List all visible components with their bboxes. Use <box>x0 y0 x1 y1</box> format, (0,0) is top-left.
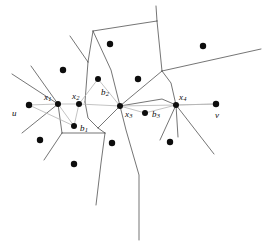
cell-edge-e-b1-cell-right <box>98 128 105 133</box>
bisector-dot-b3 <box>142 110 148 116</box>
site-dot-s4 <box>135 76 141 82</box>
path-node-dot-x1 <box>55 101 61 107</box>
cell-edge-e-top-center <box>88 31 93 62</box>
path-node-dot-u <box>26 102 32 108</box>
label-base-b2: b <box>101 87 106 97</box>
label-x3: x3 <box>125 110 133 120</box>
label-u: u <box>12 109 17 118</box>
label-v: v <box>215 111 219 120</box>
label-x4: x4 <box>179 93 187 103</box>
cell-edge-e-x4-dr <box>176 105 214 154</box>
label-b2: b2 <box>101 88 109 98</box>
label-sub-x4: 4 <box>183 95 187 102</box>
label-x2: x2 <box>72 92 80 102</box>
cell-edge-e-b1-bottom <box>96 133 105 205</box>
cell-edge-e-upper-right <box>93 21 157 31</box>
bisector-dot-b2 <box>95 76 101 82</box>
label-sub-b1: 1 <box>85 126 89 133</box>
cell-edge-e-x3-down <box>120 106 139 240</box>
voronoi-figure: ux1x2x3x4b1b2b3v <box>0 0 266 252</box>
voronoi-canvas <box>0 0 266 252</box>
label-base-b1: b <box>80 123 85 133</box>
site-dot-s3 <box>60 67 66 73</box>
path-node-dot-v <box>213 101 219 107</box>
cell-edge-e-right-long <box>162 49 261 71</box>
site-dot-s2 <box>200 43 206 49</box>
voronoi-cell-edges <box>12 6 261 240</box>
label-base-b3: b <box>152 109 157 119</box>
cell-edge-e-left-star-c <box>22 104 58 133</box>
path-node-dot-x3 <box>117 103 123 109</box>
label-sub-x1: 1 <box>48 95 52 102</box>
path-edge-b3-x4 <box>145 105 176 113</box>
cell-edge-e-upper-left-spur <box>70 36 88 62</box>
label-sub-b2: 2 <box>106 90 110 97</box>
path-edge-x2-b2 <box>79 79 98 104</box>
path-edge-x4-v2 <box>176 104 216 105</box>
cell-edge-e-mid-down <box>98 106 120 128</box>
site-dot-s1 <box>107 41 113 47</box>
site-dot-s5 <box>37 137 43 143</box>
label-x1: x1 <box>44 93 52 103</box>
cell-edge-e-x4-dm <box>176 105 178 137</box>
path-edge-u-b1 <box>29 105 74 126</box>
path-edge-b1-x2 <box>74 104 79 126</box>
label-base-u: u <box>12 108 17 118</box>
site-dot-s6 <box>109 140 115 146</box>
bisector-dot-b1 <box>71 123 77 129</box>
label-sub-b3: 3 <box>157 112 161 119</box>
bisector-point-dots <box>71 76 148 129</box>
path-edge-u-x1 <box>29 104 58 105</box>
label-sub-x2: 2 <box>76 94 80 101</box>
cell-edge-e-right-upper <box>157 21 162 71</box>
label-b1: b1 <box>80 124 88 134</box>
site-dot-s8 <box>71 161 77 167</box>
label-base-v: v <box>215 110 219 120</box>
path-edge-x3-x4 <box>120 105 176 106</box>
path-edge-x2-x3 <box>79 104 120 106</box>
cell-edge-e-b1-cell-spur <box>44 133 62 160</box>
cell-edge-e-x4-dl <box>160 105 176 140</box>
label-sub-x3: 3 <box>129 112 133 119</box>
site-dot-s7 <box>167 139 173 145</box>
cell-edge-e-x3-up <box>120 71 162 106</box>
cell-edge-e-top-stem <box>156 6 157 21</box>
label-b3: b3 <box>152 110 160 120</box>
